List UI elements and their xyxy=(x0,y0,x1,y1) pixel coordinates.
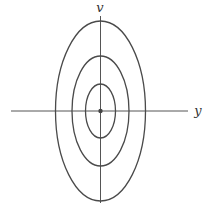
vertical-axis-label: v xyxy=(96,0,104,15)
contour-diagram: v y xyxy=(0,0,215,207)
center-point xyxy=(98,109,102,113)
horizontal-axis-label: y xyxy=(193,103,202,118)
